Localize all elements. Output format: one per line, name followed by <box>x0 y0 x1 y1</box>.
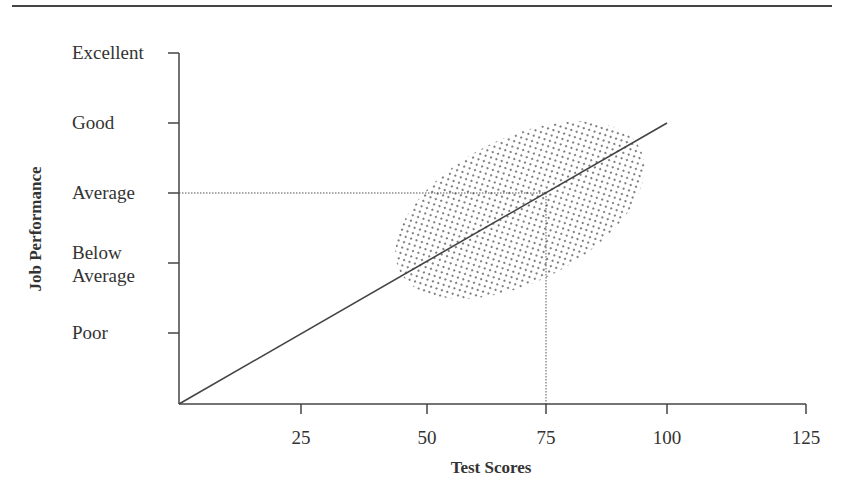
x-tick-25: 25 <box>292 427 311 449</box>
regression-line <box>179 123 667 404</box>
y-tick-poor: Poor <box>72 322 108 344</box>
y-tick-average: Average <box>72 182 135 204</box>
x-tick-75: 75 <box>537 427 556 449</box>
y-tick-excellent: Excellent <box>72 42 144 64</box>
y-tick-good: Good <box>72 112 114 134</box>
x-tick-100: 100 <box>653 427 682 449</box>
distribution-ellipse <box>367 85 673 336</box>
x-tick-50: 50 <box>418 427 437 449</box>
x-axis-title: Test Scores <box>451 458 532 478</box>
y-axis-title: Job Performance <box>26 166 46 291</box>
y-tick-below-average-1: Below <box>72 242 122 264</box>
y-tick-below-average-2: Average <box>72 265 135 287</box>
x-tick-125: 125 <box>792 427 821 449</box>
chart-plot <box>0 0 843 493</box>
